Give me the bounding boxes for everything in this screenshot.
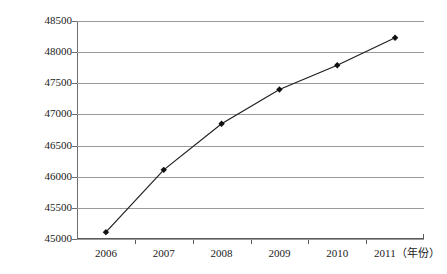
series-polyline [106, 38, 395, 232]
x-axis-tick-labels: 200620072008200920102011（年份） [0, 246, 447, 262]
y-tick-label: 45000 [2, 233, 72, 244]
x-tick-label: 2006 [95, 246, 117, 260]
cropped-top-artifact [0, 0, 447, 6]
x-tick-label: 2008 [211, 246, 233, 260]
y-tick-label: 46500 [2, 140, 72, 151]
data-series-line [77, 21, 424, 239]
x-axis-right-end-cap [423, 234, 424, 239]
x-tick-mark [366, 240, 367, 244]
x-tick-mark [193, 240, 194, 244]
y-tick-label: 46000 [2, 171, 72, 182]
x-tick-mark [251, 240, 252, 244]
y-tick-label: 48500 [2, 15, 72, 26]
x-tick-mark [135, 240, 136, 244]
x-tick-label: 2007 [153, 246, 175, 260]
y-tick-label: 45500 [2, 202, 72, 213]
y-tick-label: 47500 [2, 77, 72, 88]
x-axis-line [77, 238, 424, 239]
series-markers [103, 35, 399, 236]
x-axis-tick-marks [77, 240, 424, 245]
data-point-marker [334, 62, 340, 68]
y-tick-label: 48000 [2, 46, 72, 57]
x-tick-mark [308, 240, 309, 244]
plot-area [77, 21, 424, 239]
data-point-marker [392, 35, 398, 41]
y-axis-tick-labels: 4500045500460004650047000475004800048500 [0, 21, 72, 239]
x-tick-label: 2009 [268, 246, 290, 260]
data-point-marker [276, 86, 282, 92]
x-tick-label: 2010 [326, 246, 348, 260]
x-tick-label: 2011（年份） [374, 246, 440, 260]
y-tick-label: 47000 [2, 108, 72, 119]
line-chart-figure: 4500045500460004650047000475004800048500… [0, 0, 447, 274]
